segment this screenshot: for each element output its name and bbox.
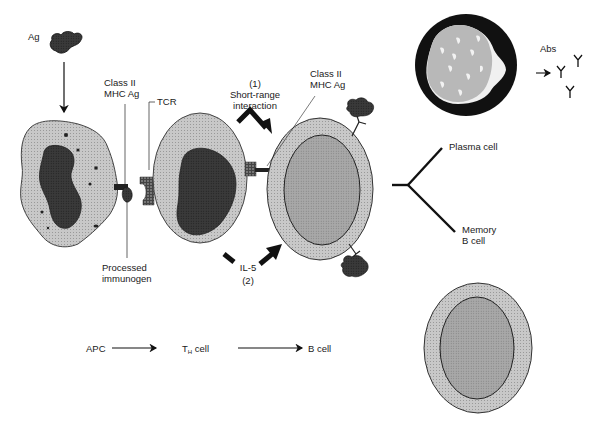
- il5-label: IL-5: [240, 262, 256, 273]
- tcr-leader-line: [149, 102, 155, 170]
- abs-label: Abs: [540, 43, 557, 54]
- plasma-cell: [415, 14, 517, 116]
- b-cell: [267, 118, 373, 260]
- apc-cell: [21, 121, 118, 247]
- diagram-canvas: Ag: [0, 0, 606, 424]
- memory-label-line2: B cell: [462, 235, 485, 246]
- antibody-icon: [574, 55, 582, 67]
- differentiation-branch: [392, 148, 455, 232]
- interaction-number-label: (1): [249, 78, 261, 89]
- class2-mhc-right-label-line1: Class II: [310, 68, 342, 79]
- bound-antigen-top-icon: [347, 98, 374, 117]
- il5-arrow: [224, 244, 282, 264]
- th-cell: [153, 113, 247, 243]
- class2-mhc-left-label-line1: Class II: [104, 77, 136, 88]
- processed-label-line2: immunogen: [102, 273, 152, 284]
- b-cell-mhc-molecule: [255, 168, 269, 172]
- antigen-blob-icon: [50, 32, 82, 54]
- flow-apc-label: APC: [86, 343, 106, 354]
- antibody-icon: [566, 86, 574, 98]
- processed-immunogen-icon: [122, 187, 132, 202]
- memory-label-line1: Memory: [462, 224, 497, 235]
- il5-number-label: (2): [242, 275, 254, 286]
- memory-b-cell: [424, 283, 532, 413]
- th-cd4-receptor: [245, 162, 256, 176]
- antibody-icon: [557, 66, 565, 78]
- tcr-label: TCR: [157, 96, 177, 107]
- flow-bcell-label: B cell: [308, 343, 331, 354]
- class2-mhc-left-label-line2: MHC Ag: [104, 88, 139, 99]
- bound-antigen-bottom-icon: [341, 256, 368, 277]
- tcr-molecule: [140, 177, 154, 205]
- antigen-label: Ag: [28, 31, 40, 42]
- interaction-label-line1: Short-range: [230, 89, 280, 100]
- plasma-cell-label: Plasma cell: [449, 141, 498, 152]
- flow-th-label: TH cell: [182, 343, 209, 355]
- class2-mhc-right-label-line2: MHC Ag: [310, 79, 345, 90]
- short-range-interaction-arrow: [238, 110, 272, 134]
- processed-label-line1: Processed: [102, 262, 147, 273]
- b-cell-receptor-top: [352, 116, 366, 136]
- interaction-label-line2: interaction: [233, 100, 277, 111]
